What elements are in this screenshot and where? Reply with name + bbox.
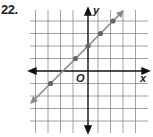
y-axis-label: y xyxy=(93,4,99,16)
point xyxy=(110,18,115,23)
point xyxy=(85,43,90,48)
origin-label: O xyxy=(76,72,85,84)
coordinate-graph xyxy=(0,0,153,137)
axes xyxy=(29,8,149,133)
x-axis-left-arrow-icon xyxy=(29,68,36,74)
point xyxy=(48,81,53,86)
point xyxy=(98,31,103,36)
point xyxy=(73,56,78,61)
y-axis-up-arrow-icon xyxy=(85,8,91,15)
y-axis-down-arrow-icon xyxy=(85,126,91,133)
x-axis-label: x xyxy=(140,72,146,84)
